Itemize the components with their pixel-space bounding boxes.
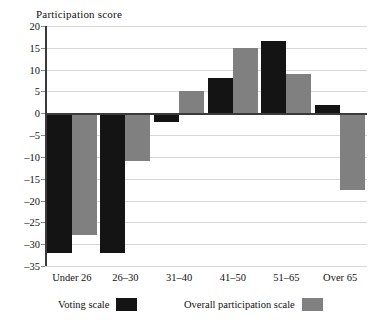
x-axis-category-label: Under 26 [52, 272, 91, 283]
y-axis-tick-label: 10 [30, 64, 41, 75]
y-axis-line [45, 26, 47, 266]
bar-voting-scale [261, 41, 286, 113]
x-axis-category-label: 51–65 [273, 272, 299, 283]
bar-group: 26–30 [99, 26, 153, 266]
bar-voting-scale [315, 105, 340, 114]
chart-title: Participation score [36, 8, 122, 20]
chart-legend: Voting scale Overall participation scale [45, 298, 367, 320]
legend-swatch-overall-participation-scale [302, 298, 323, 311]
bar-overall-participation-scale [179, 91, 204, 113]
zero-axis-line [45, 113, 367, 115]
bar-overall-participation-scale [125, 113, 150, 161]
x-axis-category-label: 26–30 [112, 272, 138, 283]
x-axis-category-label: Over 65 [323, 272, 357, 283]
gridline [45, 266, 367, 267]
x-axis-category-label: 31–40 [166, 272, 192, 283]
bar-voting-scale [208, 78, 233, 113]
legend-label-overall-participation-scale: Overall participation scale [184, 299, 295, 310]
legend-swatch-voting-scale [116, 298, 137, 311]
y-axis-tick-label: –30 [24, 239, 40, 250]
y-axis-tick-label: –35 [24, 261, 40, 272]
y-axis-tick-label: –25 [24, 217, 40, 228]
y-axis-tick-label: –15 [24, 173, 40, 184]
y-axis-tick-label: 20 [30, 21, 41, 32]
y-axis-tick-label: 5 [35, 86, 40, 97]
legend-label-voting-scale: Voting scale [58, 299, 109, 310]
bar-overall-participation-scale [286, 74, 311, 113]
bar-group: Over 65 [313, 26, 367, 266]
bar-voting-scale [100, 113, 125, 253]
y-axis-tick-label: –5 [30, 130, 41, 141]
y-axis-tick-label: 15 [30, 42, 41, 53]
plot-area: 20151050–5–10–15–20–25–30–35Under 2626–3… [45, 26, 367, 266]
bar-overall-participation-scale [72, 113, 97, 235]
y-axis-tick-mark [41, 266, 45, 267]
bar-overall-participation-scale [233, 48, 258, 113]
bar-group: 31–40 [152, 26, 206, 266]
bar-overall-participation-scale [340, 113, 365, 189]
participation-score-chart: Participation score 20151050–5–10–15–20–… [0, 0, 382, 336]
bar-group: 51–65 [260, 26, 314, 266]
bar-group: 41–50 [206, 26, 260, 266]
legend-item-voting-scale: Voting scale [58, 298, 137, 311]
x-axis-category-label: 41–50 [220, 272, 246, 283]
y-axis-tick-label: –10 [24, 151, 40, 162]
bar-group: Under 26 [45, 26, 99, 266]
y-axis-tick-label: –20 [24, 195, 40, 206]
legend-item-overall-participation-scale: Overall participation scale [184, 298, 323, 311]
bar-voting-scale [47, 113, 72, 253]
y-axis-tick-label: 0 [35, 108, 40, 119]
